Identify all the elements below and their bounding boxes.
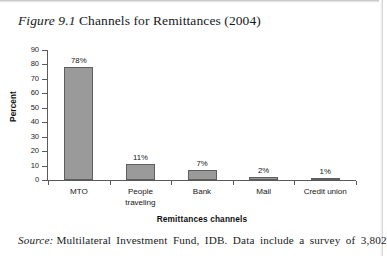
bar-value-label: 7%	[172, 159, 232, 168]
x-axis-title: Remittances channels	[48, 214, 356, 224]
bar	[126, 164, 155, 180]
x-category-label: MTO	[48, 187, 110, 198]
y-tick-label: 40	[0, 117, 39, 126]
y-tick-label: 20	[0, 146, 39, 155]
y-tick-label: 70	[0, 74, 39, 83]
y-tick-mark	[42, 151, 47, 152]
x-category-label: Mail	[233, 187, 295, 198]
y-tick-mark	[42, 137, 47, 138]
bar-value-label: 11%	[110, 153, 170, 162]
source-label: Source:	[18, 234, 53, 246]
figure-title: Channels for Remittances (2004)	[79, 13, 261, 28]
bar-value-label: 78%	[49, 56, 109, 65]
x-category-label: Credit union	[294, 187, 356, 198]
bar	[64, 67, 93, 180]
x-tick-mark	[171, 181, 172, 185]
bar	[188, 170, 217, 180]
x-tick-mark	[48, 181, 49, 185]
page-edge-top	[0, 0, 383, 3]
y-tick-mark	[42, 64, 47, 65]
y-tick-mark	[42, 108, 47, 109]
y-tick-mark	[42, 79, 47, 80]
y-tick-mark	[42, 93, 47, 94]
y-tick-label: 60	[0, 88, 39, 97]
x-tick-mark	[294, 181, 295, 185]
y-tick-label: 50	[0, 103, 39, 112]
y-tick-mark	[42, 180, 47, 181]
x-axis-line	[47, 180, 356, 181]
bar-value-label: 1%	[295, 167, 355, 176]
y-tick-label: 80	[0, 59, 39, 68]
x-tick-mark	[356, 181, 357, 185]
x-category-label: Bank	[171, 187, 233, 198]
source-text: Multilateral Investment Fund, IDB. Data …	[56, 234, 386, 246]
y-tick-mark	[42, 50, 47, 51]
y-tick-mark	[42, 166, 47, 167]
y-tick-label: 0	[0, 175, 39, 184]
bar-value-label: 2%	[234, 166, 294, 175]
figure-caption: Figure 9.1 Channels for Remittances (200…	[18, 13, 261, 29]
bar	[249, 177, 278, 180]
y-tick-label: 30	[0, 132, 39, 141]
x-tick-mark	[233, 181, 234, 185]
bar	[311, 178, 340, 180]
x-category-label: Peopletraveling	[110, 187, 172, 208]
y-tick-label: 90	[0, 45, 39, 54]
source-note: Source: Multilateral Investment Fund, ID…	[18, 234, 366, 246]
figure-number: Figure 9.1	[18, 13, 76, 28]
y-tick-mark	[42, 122, 47, 123]
y-tick-label: 10	[0, 161, 39, 170]
bar-chart: Percent 0102030405060708090 78%11%7%2%1%…	[0, 40, 383, 220]
x-tick-mark	[110, 181, 111, 185]
